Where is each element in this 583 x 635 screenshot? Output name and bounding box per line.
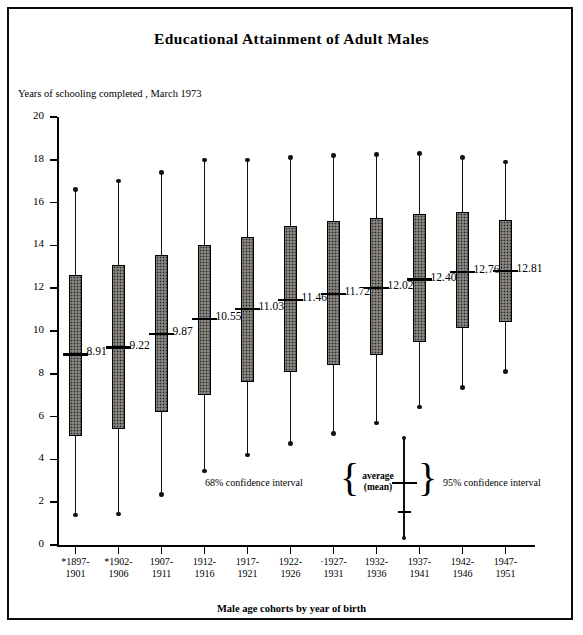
y-tick-label: 18: [14, 152, 44, 164]
y-tick-mark: [50, 159, 57, 161]
y-tick-mark: [50, 373, 57, 375]
whisker-cap-lower: [374, 421, 379, 426]
x-tick-mark: [419, 546, 421, 554]
x-tick-mark: [75, 546, 77, 554]
mean-marker: [450, 271, 475, 273]
y-tick-label: 0: [14, 537, 44, 549]
mean-value-label: 9.87: [173, 325, 193, 337]
x-tick-mark: [118, 546, 120, 554]
whisker-cap-upper: [116, 179, 121, 184]
plot-area: 02468101214161820 *1897-1901*1902-190619…: [0, 0, 583, 635]
whisker-cap-upper: [374, 152, 379, 157]
y-axis: [57, 117, 59, 546]
y-tick-label: 12: [14, 280, 44, 292]
mean-marker: [235, 308, 260, 310]
mean-marker: [278, 299, 303, 301]
x-tick-label: 1947-1951: [477, 556, 535, 579]
y-tick-mark: [50, 544, 57, 546]
y-tick-mark: [50, 116, 57, 118]
whisker-cap-lower: [202, 469, 207, 474]
legend-mean-label: average(mean): [352, 471, 404, 492]
y-tick-mark: [50, 287, 57, 289]
y-tick-mark: [50, 245, 57, 247]
whisker-cap-upper: [288, 155, 293, 160]
whisker-cap-lower: [417, 405, 422, 410]
x-tick-mark: [505, 546, 507, 554]
y-tick-label: 16: [14, 195, 44, 207]
whisker-cap-lower: [460, 385, 465, 390]
whisker-cap-lower: [116, 512, 121, 517]
y-tick-label: 4: [14, 451, 44, 463]
mean-value-label: 12.81: [517, 262, 543, 274]
legend-95-label: 95% confidence interval: [443, 477, 541, 488]
y-tick-mark: [50, 459, 57, 461]
y-tick-mark: [50, 416, 57, 418]
mean-marker: [192, 318, 217, 320]
whisker-cap-upper: [73, 187, 78, 192]
mean-value-label: 10.55: [216, 310, 242, 322]
x-tick-mark: [247, 546, 249, 554]
mean-value-label: 11.03: [259, 300, 284, 312]
legend-mean-line1: average: [352, 471, 404, 482]
mean-marker: [106, 346, 131, 348]
mean-marker: [149, 333, 174, 335]
whisker-cap-lower: [288, 441, 293, 446]
x-tick-mark: [204, 546, 206, 554]
y-tick-label: 10: [14, 323, 44, 335]
mean-value-label: 9.22: [130, 339, 150, 351]
legend-mean-line2: (mean): [352, 482, 404, 493]
y-tick-mark: [50, 202, 57, 204]
whisker-cap-lower: [245, 453, 250, 458]
y-tick-label: 2: [14, 494, 44, 506]
y-tick-label: 6: [14, 409, 44, 421]
whisker-cap-lower: [503, 369, 508, 374]
legend-68-label: 68% confidence interval: [205, 477, 303, 488]
y-tick-label: 14: [14, 237, 44, 249]
x-tick-mark: [290, 546, 292, 554]
y-tick-label: 20: [14, 109, 44, 121]
legend-brace-right: }: [418, 459, 437, 497]
whisker-cap-upper: [202, 158, 207, 163]
y-tick-mark: [50, 501, 57, 503]
y-tick-mark: [50, 330, 57, 332]
mean-marker: [364, 287, 389, 289]
y-tick-label: 8: [14, 366, 44, 378]
whisker-cap-lower: [331, 431, 336, 436]
x-tick-mark: [462, 546, 464, 554]
x-tick-mark: [333, 546, 335, 554]
confidence-box: [69, 275, 82, 436]
whisker-cap-upper: [460, 155, 465, 160]
mean-marker: [63, 353, 88, 355]
whisker-cap-upper: [331, 153, 336, 158]
whisker-cap-upper: [245, 158, 250, 163]
whisker-cap-upper: [159, 170, 164, 175]
whisker-cap-upper: [503, 160, 508, 165]
whisker-cap-upper: [417, 151, 422, 156]
mean-value-label: 8.91: [87, 345, 107, 357]
x-tick-mark: [161, 546, 163, 554]
x-tick-label-bottom: 1951: [477, 568, 535, 580]
mean-marker: [407, 278, 432, 280]
whisker-cap-lower: [73, 513, 78, 518]
x-tick-label-top: 1947-: [477, 556, 535, 568]
mean-marker: [321, 293, 346, 295]
x-tick-mark: [376, 546, 378, 554]
figure-container: Educational Attainment of Adult Males Ye…: [0, 0, 583, 635]
x-axis: [57, 545, 535, 547]
mean-marker: [493, 270, 518, 272]
whisker-cap-lower: [159, 492, 164, 497]
